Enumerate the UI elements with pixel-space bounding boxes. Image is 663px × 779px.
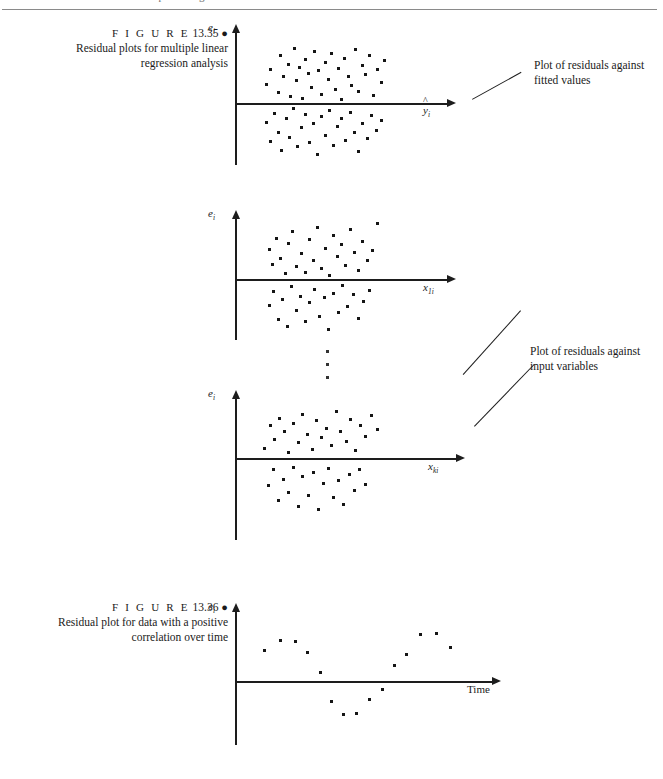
data-point bbox=[381, 688, 384, 691]
plot-residuals-vs-time: ei Time bbox=[0, 0, 663, 779]
data-point bbox=[279, 639, 282, 642]
data-point bbox=[435, 632, 438, 635]
data-point bbox=[368, 698, 371, 701]
plot4-x-axis-arrow-icon bbox=[492, 677, 501, 685]
textbook-page: 716CHAPTER 13 Multiple Regression F I G … bbox=[0, 0, 663, 779]
plot4-x-axis bbox=[235, 681, 493, 683]
data-point bbox=[355, 712, 358, 715]
data-point bbox=[319, 671, 322, 674]
data-point bbox=[306, 651, 309, 654]
data-point bbox=[263, 649, 266, 652]
plot4-y-axis bbox=[235, 609, 237, 745]
data-point bbox=[330, 700, 333, 703]
data-point bbox=[393, 664, 396, 667]
data-point bbox=[405, 653, 408, 656]
data-point bbox=[342, 713, 345, 716]
data-point bbox=[419, 633, 422, 636]
plot4-x-axis-label: Time bbox=[467, 683, 490, 695]
plot4-y-axis-label: ei bbox=[208, 600, 215, 615]
data-point bbox=[294, 640, 297, 643]
data-point bbox=[449, 646, 452, 649]
